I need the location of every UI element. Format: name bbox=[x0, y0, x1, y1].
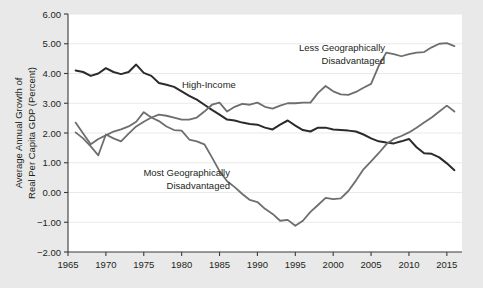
annotation-high-income-line1: High-Income bbox=[182, 79, 236, 90]
x-tick-label: 1975 bbox=[133, 259, 154, 270]
y-tick-label: 2.00 bbox=[43, 128, 62, 139]
y-tick-label: −1.00 bbox=[37, 217, 61, 228]
annotation-high-income: High-Income bbox=[182, 79, 236, 90]
annotation-less-line1: Less Geographically bbox=[299, 42, 385, 53]
y-axis-title-line1: Average Annual Growth of bbox=[13, 77, 24, 188]
y-axis-title-line2: Real Per Capita GDP (Percent) bbox=[26, 67, 37, 199]
annotation-most-line2: Disadvantaged bbox=[167, 180, 230, 191]
x-tick-label: 2015 bbox=[436, 259, 457, 270]
y-tick-label: 0.00 bbox=[43, 187, 62, 198]
x-tick-label: 2000 bbox=[323, 259, 344, 270]
x-tick-label: 1990 bbox=[247, 259, 268, 270]
x-tick-label: 1985 bbox=[209, 259, 230, 270]
y-axis-ticks: −2.00−1.000.001.002.003.004.005.006.00 bbox=[37, 9, 68, 258]
chart-figure: −2.00−1.000.001.002.003.004.005.006.00 1… bbox=[0, 0, 483, 288]
x-axis-ticks: 1965197019751980198519901995200020052010… bbox=[57, 252, 457, 270]
y-tick-label: 3.00 bbox=[43, 98, 62, 109]
y-tick-label: 1.00 bbox=[43, 157, 62, 168]
y-axis-title: Average Annual Growth of Real Per Capita… bbox=[13, 67, 37, 199]
x-tick-label: 2005 bbox=[361, 259, 382, 270]
x-tick-label: 1965 bbox=[57, 259, 78, 270]
y-tick-label: −2.00 bbox=[37, 247, 61, 258]
x-tick-label: 1970 bbox=[95, 259, 116, 270]
x-tick-label: 1995 bbox=[285, 259, 306, 270]
y-tick-label: 5.00 bbox=[43, 38, 62, 49]
line-chart: −2.00−1.000.001.002.003.004.005.006.00 1… bbox=[0, 0, 483, 288]
annotation-most-line1: Most Geographically bbox=[143, 167, 230, 178]
y-tick-label: 4.00 bbox=[43, 68, 62, 79]
y-tick-label: 6.00 bbox=[43, 9, 62, 20]
x-tick-label: 1980 bbox=[171, 259, 192, 270]
annotation-less-line2: Disadvantaged bbox=[322, 55, 385, 66]
x-tick-label: 2010 bbox=[398, 259, 419, 270]
